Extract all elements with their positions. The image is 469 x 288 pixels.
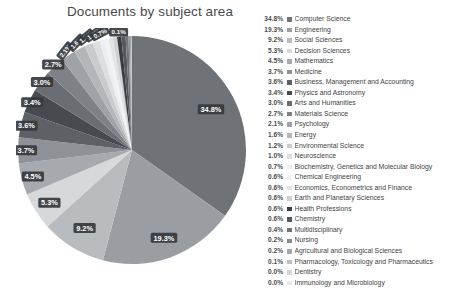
legend-item[interactable]: 0.1%Pharmacology, Toxicology and Pharmac…: [258, 257, 466, 268]
legend-percent: 0.0%: [258, 267, 283, 278]
legend-item[interactable]: 5.3%Decision Sciences: [258, 46, 466, 57]
legend-percent: 0.7%: [258, 162, 283, 173]
legend-item[interactable]: 9.2%Social Sciences: [258, 35, 466, 46]
legend-percent: 2.7%: [258, 109, 283, 120]
legend-label: Multidisciplinary: [295, 225, 467, 236]
legend-color-swatch-icon: [287, 196, 292, 201]
legend-item[interactable]: 0.4%Multidisciplinary: [258, 225, 466, 236]
pie-data-label-text: 0.1%: [112, 28, 127, 35]
pie-data-label: 5.3%: [38, 198, 60, 208]
pie-data-label-text: 5.3%: [41, 198, 58, 207]
legend-label: Pharmacology, Toxicology and Pharmaceuti…: [295, 257, 467, 268]
legend-color-swatch-icon: [287, 91, 292, 96]
legend-color-swatch-icon: [287, 281, 292, 286]
pie-data-label-text: 34.8%: [200, 105, 221, 114]
legend-item[interactable]: 3.4%Physics and Astronomy: [258, 88, 466, 99]
legend-item[interactable]: 0.0%Immunology and Microbiology: [258, 278, 466, 288]
legend-color-swatch-icon: [287, 207, 292, 212]
legend-item[interactable]: 0.2%Nursing: [258, 235, 466, 246]
legend-item[interactable]: 0.6%Economics, Econometrics and Finance: [258, 183, 466, 194]
pie-data-label: 0.1%: [109, 28, 128, 36]
legend-color-swatch-icon: [287, 217, 292, 222]
legend-label: Environmental Science: [295, 141, 467, 152]
legend-label: Psychology: [295, 119, 467, 130]
pie-data-label: 3.0%: [31, 77, 53, 87]
legend-item[interactable]: 3.6%Business, Management and Accounting: [258, 77, 466, 88]
legend-percent: 3.0%: [258, 98, 283, 109]
legend-item[interactable]: 3.7%Medicine: [258, 67, 466, 78]
legend-color-swatch-icon: [287, 49, 292, 54]
legend-item[interactable]: 1.6%Energy: [258, 130, 466, 141]
pie-data-label: 9.2%: [73, 223, 95, 233]
legend: 34.8%Computer Science19.3%Engineering9.2…: [258, 14, 466, 266]
legend-color-swatch-icon: [287, 270, 292, 275]
legend-label: Energy: [295, 130, 467, 141]
legend-item[interactable]: 1.2%Environmental Science: [258, 141, 466, 152]
legend-item[interactable]: 2.1%Psychology: [258, 119, 466, 130]
legend-label: Mathematics: [295, 56, 467, 67]
legend-percent: 3.4%: [258, 88, 283, 99]
pie-data-label-text: 3.4%: [24, 98, 41, 107]
legend-color-swatch-icon: [287, 260, 292, 265]
legend-label: Immunology and Microbiology: [295, 278, 467, 288]
legend-color-swatch-icon: [287, 38, 292, 43]
legend-percent: 4.5%: [258, 56, 283, 67]
legend-label: Physics and Astronomy: [295, 88, 467, 99]
legend-percent: 1.6%: [258, 130, 283, 141]
pie-chart-svg: 34.8%19.3%9.2%5.3%4.5%3.7%3.6%3.4%3.0%2.…: [16, 28, 248, 272]
legend-percent: 3.7%: [258, 67, 283, 78]
legend-color-swatch-icon: [287, 59, 292, 64]
legend-item[interactable]: 34.8%Computer Science: [258, 14, 466, 25]
pie-data-label-text: 2.7%: [45, 60, 62, 69]
pie-data-label: 4.5%: [22, 171, 44, 181]
legend-item[interactable]: 0.2%Agricultural and Biological Sciences: [258, 246, 466, 257]
legend-item[interactable]: 4.5%Mathematics: [258, 56, 466, 67]
legend-item[interactable]: 0.6%Chemical Engineering: [258, 172, 466, 183]
legend-label: Economics, Econometrics and Finance: [295, 183, 467, 194]
legend-percent: 0.1%: [258, 257, 283, 268]
legend-percent: 0.0%: [258, 278, 283, 288]
legend-label: Social Sciences: [295, 35, 467, 46]
legend-percent: 19.3%: [258, 25, 283, 36]
legend-label: Neuroscience: [295, 151, 467, 162]
legend-percent: 3.6%: [258, 77, 283, 88]
pie-data-label-text: 4.5%: [24, 172, 41, 181]
pie-data-label: 34.8%: [198, 104, 225, 114]
legend-item[interactable]: 19.3%Engineering: [258, 25, 466, 36]
legend-item[interactable]: 0.0%Dentistry: [258, 267, 466, 278]
pie-data-label-text: 19.3%: [153, 234, 174, 243]
legend-color-swatch-icon: [287, 154, 292, 159]
pie-slice-group: [18, 36, 246, 264]
legend-label: Dentistry: [295, 267, 467, 278]
legend-label: Agricultural and Biological Sciences: [295, 246, 467, 257]
pie-data-label: 2.7%: [42, 59, 64, 69]
legend-label: Business, Management and Accounting: [295, 77, 467, 88]
legend-item[interactable]: 0.6%Earth and Planetary Sciences: [258, 193, 466, 204]
legend-percent: 1.0%: [258, 151, 283, 162]
legend-percent: 0.6%: [258, 204, 283, 215]
legend-item[interactable]: 0.7%Biochemistry, Genetics and Molecular…: [258, 162, 466, 173]
legend-color-swatch-icon: [287, 239, 292, 244]
legend-item[interactable]: 3.0%Arts and Humanities: [258, 98, 466, 109]
legend-item[interactable]: 0.6%Chemistry: [258, 214, 466, 225]
legend-label: Engineering: [295, 25, 467, 36]
legend-item[interactable]: 1.0%Neuroscience: [258, 151, 466, 162]
legend-label: Medicine: [295, 67, 467, 78]
pie-data-label-text: 3.6%: [18, 121, 35, 130]
legend-color-swatch-icon: [287, 28, 292, 33]
legend-color-swatch-icon: [287, 112, 292, 117]
legend-item[interactable]: 0.6%Health Professions: [258, 204, 466, 215]
legend-percent: 34.8%: [258, 14, 283, 25]
legend-label: Chemistry: [295, 214, 467, 225]
legend-label: Biochemistry, Genetics and Molecular Bio…: [295, 162, 467, 173]
legend-percent: 0.4%: [258, 225, 283, 236]
legend-label: Materials Science: [295, 109, 467, 120]
legend-color-swatch-icon: [287, 70, 292, 75]
legend-color-swatch-icon: [287, 144, 292, 149]
legend-item[interactable]: 2.7%Materials Science: [258, 109, 466, 120]
legend-percent: 0.2%: [258, 246, 283, 257]
legend-color-swatch-icon: [287, 17, 292, 22]
legend-color-swatch-icon: [287, 101, 292, 106]
legend-percent: 1.2%: [258, 141, 283, 152]
legend-percent: 0.6%: [258, 183, 283, 194]
